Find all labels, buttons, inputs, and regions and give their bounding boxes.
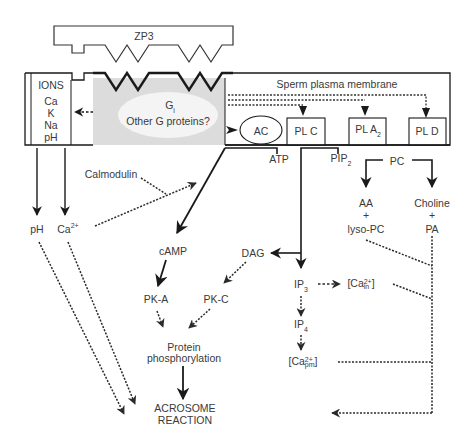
zp3-label: ZP3 [134,31,153,42]
g-protein-gi-label: Gi [165,100,175,113]
ph-to-acrosome-arrow [39,242,124,414]
protein-phosphorylation-line2: phosphorylation [147,353,221,364]
right-dotted-collector [338,236,432,413]
choline-plus: + [429,210,435,221]
ions-header: IONS [38,80,64,91]
ca-pm-node: [Ca2+pm] [289,356,318,368]
ac-label: AC [254,126,269,137]
dag-node: DAG [242,248,265,259]
atp-label: ATP [269,154,289,165]
pld-label: PL D [416,126,439,137]
calmodulin-connector [141,178,166,194]
plc-label: PL C [295,126,318,137]
pkc-to-protein-arrow [189,309,210,328]
pc-to-choline-arrow [412,160,432,187]
ip3-node: IP3 [294,279,308,292]
g-to-phospholipase-arrows [228,95,426,110]
pl-arrowheads [299,106,430,118]
protein-phosphorylation-line1: Protein [167,342,200,353]
ph-node: pH [30,224,43,235]
ca-node: Ca2+ [57,222,78,234]
g-protein-other-label: Other G proteins? [126,116,209,127]
pa-label: PA [425,224,438,235]
ion-ph: pH [44,132,57,143]
aa-plus: + [363,210,369,221]
pkc-node: PK-C [203,294,228,305]
aa-label: AA [359,198,373,209]
ion-k: K [47,108,54,119]
acrosome-reaction-line2: REACTION [158,415,212,426]
ca-to-ac-dotted-arrow [95,183,196,226]
pka-to-protein-arrow [157,311,163,327]
pka-node: PK-A [144,294,169,305]
acrosome-reaction-line1: ACROSOME [154,403,215,414]
ion-ca: Ca [44,96,57,107]
pip2-label: PIP2 [331,153,352,166]
choline-label: Choline [414,198,450,209]
ac-to-camp-arrow [177,148,225,233]
camp-node: cAMP [159,246,187,257]
pla2-label: PL A2 [355,124,381,137]
ip4-node: IP4 [294,319,308,332]
ca-in-node: [Ca2+in] [347,278,374,290]
calmodulin-label: Calmodulin [85,169,138,180]
dag-to-pkc-arrow [224,262,246,283]
ca-to-acrosome-arrow [68,242,135,404]
lyso-pc-label: lyso-PC [348,224,385,235]
pc-label: PC [390,156,405,167]
membrane-title: Sperm plasma membrane [277,79,398,90]
camp-to-pka-arrow [158,260,166,286]
pc-to-aa-arrow [366,160,383,187]
g-to-ac-arrowhead [226,126,238,134]
ion-na: Na [44,120,57,131]
